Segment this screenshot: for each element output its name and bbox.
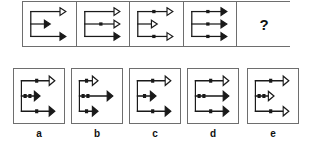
option-box-a[interactable] — [13, 68, 65, 124]
arrow-figure — [23, 2, 76, 46]
option-label-d: d — [184, 128, 242, 139]
options-row: abcde — [0, 68, 318, 156]
option-label-a: a — [10, 128, 68, 139]
arrow-figure — [14, 69, 64, 123]
arrow-figure — [72, 69, 122, 123]
arrow-figure — [130, 2, 183, 46]
arrow-figure — [188, 69, 238, 123]
sequence-cell-4 — [184, 2, 238, 46]
sequence-cell-2 — [77, 2, 131, 46]
option-label-c: c — [126, 128, 184, 139]
puzzle-stage: ? abcde — [0, 0, 318, 156]
sequence-row: ? — [22, 1, 290, 47]
sequence-cell-1 — [23, 2, 77, 46]
arrow-figure — [184, 2, 237, 46]
option-a[interactable]: a — [10, 68, 68, 139]
option-box-d[interactable] — [187, 68, 239, 124]
arrow-figure — [248, 69, 298, 123]
option-d[interactable]: d — [184, 68, 242, 139]
option-box-c[interactable] — [129, 68, 181, 124]
question-mark: ? — [237, 2, 291, 46]
option-box-e[interactable] — [247, 68, 299, 124]
sequence-cell-5: ? — [237, 2, 291, 46]
option-e[interactable]: e — [244, 68, 302, 139]
arrow-figure — [130, 69, 180, 123]
option-label-b: b — [68, 128, 126, 139]
option-c[interactable]: c — [126, 68, 184, 139]
option-label-e: e — [244, 128, 302, 139]
option-b[interactable]: b — [68, 68, 126, 139]
option-box-b[interactable] — [71, 68, 123, 124]
arrow-figure — [77, 2, 130, 46]
sequence-cell-3 — [130, 2, 184, 46]
